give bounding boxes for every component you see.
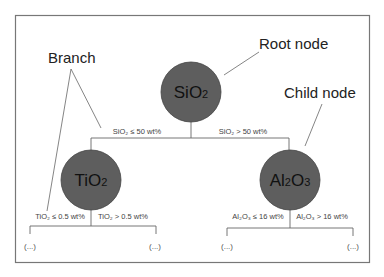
al2o3-left-condition: Al₂O₃ ≤ 16 wt% [232, 212, 284, 221]
decision-tree-diagram: Branch Root node Child node SiO2 SiO₂ ≤ … [0, 0, 384, 277]
tio2-right-condition: TiO₂ > 0.5 wt% [98, 212, 148, 221]
tio2-right-leaf: (...) [149, 242, 161, 251]
root-right-condition: SiO₂ > 50 wt% [219, 127, 268, 136]
al2o3-right-leaf: (...) [347, 242, 359, 251]
al2o3-right-condition: Al₂O₃ > 16 wt% [296, 212, 348, 221]
child-node-callout: Child node [284, 84, 356, 101]
root-node-callout: Root node [259, 35, 328, 52]
root-left-condition: SiO₂ ≤ 50 wt% [113, 127, 162, 136]
branch-callout: Branch [48, 49, 96, 66]
tio2-left-condition: TiO₂ ≤ 0.5 wt% [35, 212, 85, 221]
tio2-left-leaf: (...) [24, 242, 36, 251]
al2o3-left-leaf: (...) [221, 242, 233, 251]
